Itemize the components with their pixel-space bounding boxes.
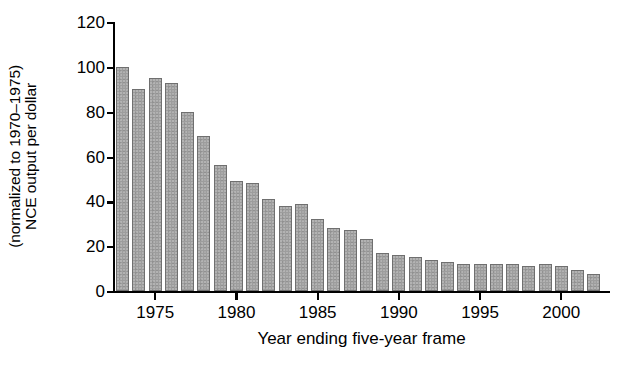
x-tick-mark-1990 <box>398 293 400 300</box>
y-tick-mark <box>107 67 113 69</box>
chart-figure: (normalized to 1970–1975) NCE output per… <box>0 0 617 367</box>
bar-1976 <box>165 83 178 291</box>
bar-1975 <box>149 78 162 291</box>
bar-2002 <box>587 274 600 291</box>
bar-1980 <box>230 181 243 291</box>
x-tick-mark-1980 <box>235 293 237 300</box>
bar-1990 <box>392 255 405 291</box>
bar-1984 <box>295 204 308 291</box>
bar-2000 <box>555 266 568 291</box>
y-tick-mark <box>107 246 113 248</box>
y-tick-label: 80 <box>86 103 105 120</box>
x-tick-mark-2000 <box>560 293 562 300</box>
bar-1974 <box>132 89 145 291</box>
bar-1993 <box>441 262 454 291</box>
bar-2001 <box>571 270 584 291</box>
x-tick-mark-1975 <box>154 293 156 300</box>
bar-1982 <box>262 199 275 291</box>
y-axis-line <box>113 22 115 293</box>
x-tick-mark-1995 <box>479 293 481 300</box>
x-tick-label-1990: 1990 <box>380 304 418 321</box>
x-axis-title: Year ending five-year frame <box>113 330 610 347</box>
bar-1981 <box>246 183 259 291</box>
y-tick-mark <box>107 112 113 114</box>
bar-1983 <box>279 206 292 291</box>
x-tick-label-1995: 1995 <box>461 304 499 321</box>
bar-1995 <box>474 264 487 291</box>
bar-1979 <box>214 165 227 291</box>
bar-1998 <box>522 266 535 291</box>
bar-1992 <box>425 260 438 291</box>
y-tick-mark <box>107 201 113 203</box>
x-tick-label-1980: 1980 <box>218 304 256 321</box>
y-tick-label: 120 <box>77 14 105 31</box>
y-tick-label: 100 <box>77 58 105 75</box>
y-tick-mark <box>107 157 113 159</box>
y-tick-label: 0 <box>96 283 105 300</box>
y-tick-mark <box>107 22 113 24</box>
bar-1973 <box>116 67 129 291</box>
y-tick-mark <box>107 291 113 293</box>
bar-1987 <box>344 230 357 291</box>
x-tick-mark-1985 <box>317 293 319 300</box>
x-tick-label-1985: 1985 <box>299 304 337 321</box>
bar-1989 <box>376 253 389 291</box>
bar-1996 <box>490 264 503 291</box>
x-axis-line <box>113 291 610 293</box>
bar-1978 <box>197 136 210 291</box>
bar-1986 <box>327 228 340 291</box>
y-axis-title-line-1: NCE output per dollar <box>23 83 39 230</box>
y-axis-title: (normalized to 1970–1975) NCE output per… <box>0 0 44 313</box>
bar-1997 <box>506 264 519 291</box>
bar-1985 <box>311 219 324 291</box>
plot-area: 020406080100120 197519801985199019952000 <box>113 22 610 291</box>
x-tick-label-1975: 1975 <box>136 304 174 321</box>
y-tick-label: 60 <box>86 148 105 165</box>
x-tick-label-2000: 2000 <box>542 304 580 321</box>
bar-1988 <box>360 239 373 291</box>
bar-1999 <box>539 264 552 291</box>
y-tick-label: 20 <box>86 238 105 255</box>
bar-1991 <box>409 257 422 291</box>
bar-1994 <box>457 264 470 291</box>
y-axis-title-line-2: (normalized to 1970–1975) <box>7 65 23 248</box>
bar-1977 <box>181 112 194 291</box>
y-tick-label: 40 <box>86 193 105 210</box>
